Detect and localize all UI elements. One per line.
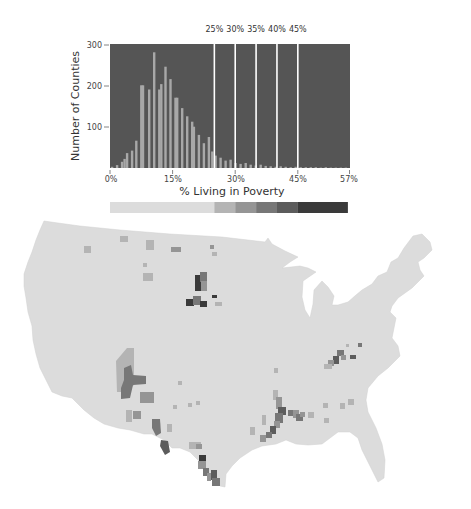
histogram-bar: [305, 167, 307, 168]
histogram-bar: [250, 165, 252, 168]
histogram-bar: [169, 79, 171, 168]
x-tick-57: 57%: [340, 175, 358, 184]
histogram-bar: [126, 153, 128, 168]
histogram-bar: [310, 167, 312, 168]
poverty-figure: 25%30%35%40%45% 100 200 300 Number of Co…: [0, 0, 471, 509]
x-axis: 0% 15% 30% 45% 57% % Living in Poverty: [105, 170, 359, 198]
histogram-bar: [290, 167, 292, 168]
legend-swatch: [298, 202, 348, 213]
y-tick-200: 200: [87, 82, 102, 91]
threshold-label: 35%: [247, 25, 265, 34]
histogram-bar: [111, 167, 113, 168]
legend-swatch: [214, 202, 235, 213]
histogram-bar: [300, 167, 302, 168]
x-tick-30: 30%: [227, 175, 245, 184]
histogram-bar: [186, 116, 188, 168]
histogram-bar: [315, 167, 317, 168]
histogram-bar: [153, 52, 155, 168]
histogram-bar: [203, 143, 205, 168]
legend-swatch: [277, 202, 298, 213]
y-axis-title: Number of Counties: [69, 51, 82, 161]
histogram-bar: [219, 158, 221, 168]
histogram-bar: [280, 166, 282, 168]
x-axis-title: % Living in Poverty: [179, 185, 285, 198]
histogram-bar: [193, 127, 195, 168]
legend-swatch: [110, 202, 214, 213]
histogram-bar: [164, 67, 166, 168]
histogram-bar: [208, 137, 210, 168]
histogram-bar: [148, 90, 150, 169]
histogram-bar: [176, 98, 178, 168]
threshold-label: 30%: [226, 25, 244, 34]
histogram-bar: [198, 135, 200, 168]
histogram-bar: [295, 167, 297, 168]
threshold-label: 40%: [268, 25, 286, 34]
histogram-bar: [239, 164, 241, 168]
legend-swatch: [256, 202, 277, 213]
threshold-label: 25%: [205, 25, 223, 34]
y-tick-100: 100: [87, 123, 102, 132]
histogram-bar: [270, 166, 272, 168]
histogram-bar: [142, 85, 144, 168]
y-tick-300: 300: [87, 41, 102, 50]
histogram-bar: [265, 166, 267, 168]
histogram-bar: [245, 163, 247, 168]
x-tick-0: 0%: [105, 175, 118, 184]
histogram-bar: [123, 159, 125, 168]
histogram-bar: [260, 165, 262, 168]
histogram-bar: [160, 84, 162, 168]
histogram-bar: [285, 167, 287, 168]
x-tick-15: 15%: [164, 175, 182, 184]
histogram-bar: [135, 141, 137, 168]
histogram-bar: [181, 108, 183, 168]
legend-swatch: [235, 202, 256, 213]
histogram-bar: [116, 165, 118, 168]
histogram-bar: [224, 161, 226, 168]
us-outline: [24, 221, 432, 487]
histogram: 25%30%35%40%45% 100 200 300 Number of Co…: [69, 25, 358, 198]
us-county-map: [24, 221, 432, 487]
histogram-bar: [121, 162, 123, 168]
histogram-bar: [131, 151, 133, 168]
x-tick-45: 45%: [289, 175, 307, 184]
histogram-bar: [211, 152, 213, 169]
threshold-label: 45%: [289, 25, 307, 34]
plot-background: [110, 44, 350, 168]
histogram-bar: [325, 167, 327, 168]
color-scale-legend: [110, 202, 348, 213]
histogram-bar: [229, 160, 231, 168]
y-axis: 100 200 300 Number of Counties: [69, 41, 109, 161]
